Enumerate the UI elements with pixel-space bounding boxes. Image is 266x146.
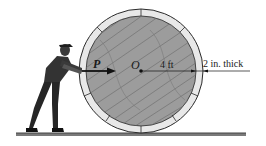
thickness-label: 2 in. thick: [203, 59, 243, 69]
center-label-o: O: [131, 59, 140, 71]
radius-label: 4 ft: [160, 60, 174, 70]
force-label-p: P: [93, 58, 100, 70]
wheel-diagram: [0, 0, 266, 146]
man-figure: [26, 44, 82, 132]
thickness-leader: [196, 70, 250, 73]
ground: [16, 133, 246, 136]
